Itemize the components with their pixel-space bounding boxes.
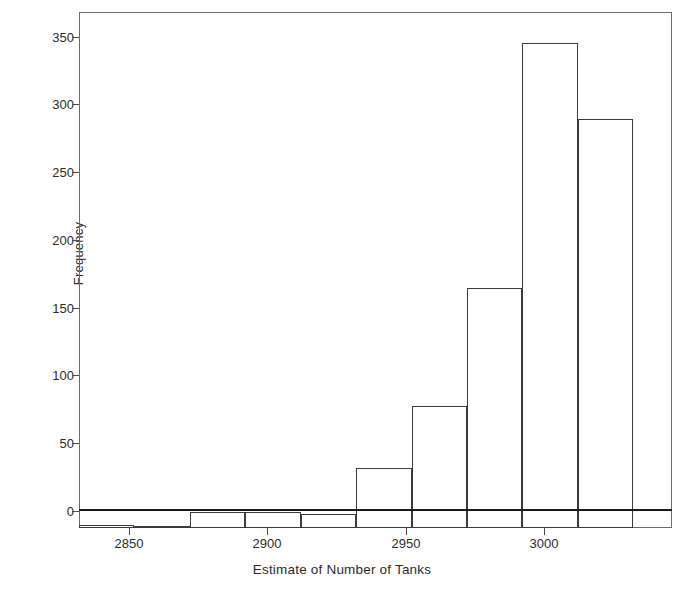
bar-2998-3018 [522,43,577,528]
x-tick-mark-2900 [267,528,268,535]
bar-2878-2898 [190,512,245,528]
x-tick-mark-2950 [406,528,407,535]
y-tick-label-200: 200 [28,234,74,247]
y-tick-mark-300 [72,104,79,105]
bar-2838-2858 [79,525,134,528]
histogram-bars [79,12,672,528]
bar-2938-2958 [356,468,411,528]
bar-2858-2878 [134,526,189,528]
y-tick-mark-100 [72,375,79,376]
x-tick-label-2900: 2900 [227,536,307,551]
y-tick-mark-0 [72,511,79,512]
y-tick-label-350: 350 [28,31,74,44]
x-tick-label-2850: 2850 [89,536,169,551]
bar-2978-2998 [467,288,522,528]
x-tick-label-2950: 2950 [366,536,446,551]
y-tick-label-250: 250 [28,166,74,179]
x-tick-mark-2850 [129,528,130,535]
y-tick-mark-250 [72,172,79,173]
y-tick-label-300: 300 [28,98,74,111]
y-tick-mark-200 [72,240,79,241]
y-tick-mark-150 [72,308,79,309]
bar-2898-2918 [245,512,300,528]
x-axis-title: Estimate of Number of Tanks [0,562,684,577]
x-tick-mark-3000 [544,528,545,535]
bar-3018-3038 [578,119,633,528]
y-tick-label-150: 150 [28,302,74,315]
y-tick-label-50: 50 [28,437,74,450]
y-tick-label-0: 0 [28,505,74,518]
y-axis-ticks: 0 50 100 150 200 250 300 350 [20,0,74,592]
bar-2918-2938 [301,514,356,528]
y-tick-mark-350 [72,37,79,38]
histogram-figure: Frequency 0 50 100 150 200 250 300 350 2… [0,0,684,592]
x-tick-label-3000: 3000 [504,536,584,551]
zero-baseline [79,509,672,511]
y-tick-label-100: 100 [28,369,74,382]
y-tick-mark-50 [72,443,79,444]
